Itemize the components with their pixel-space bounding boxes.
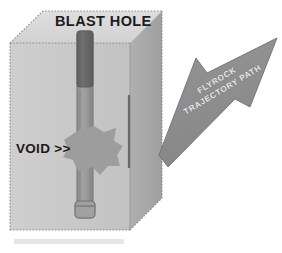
blast-hole-column [75, 31, 95, 218]
diagram-canvas [0, 0, 282, 253]
blast-hole-title-label: BLAST HOLE [55, 13, 152, 29]
hole-toe-cap [75, 201, 95, 218]
void-callout-label: VOID >> [16, 141, 71, 156]
rock-side-face [130, 11, 162, 230]
blast-hole-flyrock-diagram: BLAST HOLE VOID >> FLYROCK TRAJECTORY PA… [0, 0, 282, 253]
ground-shadow-band [14, 239, 124, 244]
flyrock-trajectory-arrow [159, 38, 277, 167]
explosive-charge-section [77, 31, 93, 87]
